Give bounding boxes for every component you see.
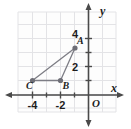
point-b-label: B (62, 80, 70, 91)
point-c-label: C (26, 80, 33, 91)
origin-label: O (92, 97, 100, 109)
x-axis-label: x (110, 81, 117, 95)
coordinate-plane-figure: A B C 4 2 -4 -2 O y x (0, 0, 131, 129)
y-tick-label-2: 2 (72, 61, 78, 73)
y-tick-label-4: 4 (72, 28, 79, 40)
x-axis-arrow-left (5, 92, 12, 98)
x-tick-label-neg4: -4 (28, 99, 39, 111)
y-axis-label: y (98, 4, 106, 18)
point-a-marker (72, 45, 77, 50)
x-axis-arrow-right (117, 92, 124, 98)
x-tick-label-neg2: -2 (56, 99, 66, 111)
y-axis-arrow-down (86, 120, 92, 127)
y-axis-arrow-up (86, 3, 92, 10)
coordinate-plot-svg: A B C 4 2 -4 -2 O y x (0, 0, 131, 129)
